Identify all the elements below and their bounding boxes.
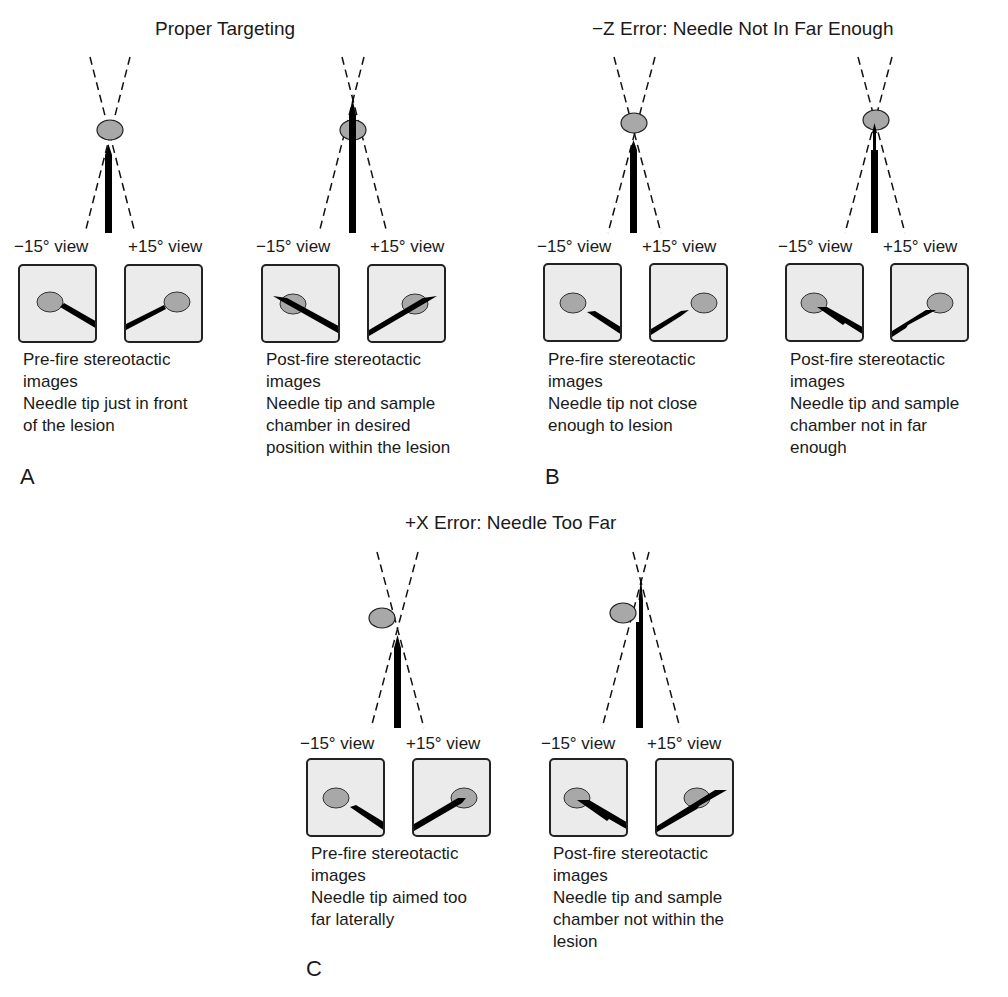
- needle-shaft-icon: [105, 155, 112, 233]
- panel-b-prefire-side-diagram: [590, 55, 680, 235]
- caption-line: Needle tip not close: [548, 393, 788, 415]
- caption-line: images: [23, 371, 263, 393]
- needle-tip-icon: [394, 635, 401, 648]
- panel-a-prefire-caption: Pre-fire stereotactic images Needle tip …: [23, 349, 263, 437]
- panel-a-title: Proper Targeting: [155, 18, 295, 40]
- plus-15-view-label: +15° view: [128, 237, 202, 257]
- panel-b-postfire-side-diagram: [830, 55, 920, 235]
- panel-a-postfire-minus15-view: [261, 264, 340, 343]
- minus-15-view-label: −15° view: [256, 237, 330, 257]
- caption-line: Needle tip and sample: [553, 887, 793, 909]
- panel-a-prefire-side-diagram: [70, 55, 160, 235]
- caption-line: Pre-fire stereotactic: [23, 349, 263, 371]
- caption-line: of the lesion: [23, 415, 263, 437]
- lesion-icon: [610, 603, 636, 623]
- lesion-icon: [621, 113, 647, 133]
- needle-shaft-icon: [349, 115, 356, 233]
- panel-c-postfire-side-diagram: [590, 550, 690, 730]
- caption-line: enough to lesion: [548, 415, 788, 437]
- caption-line: Needle tip aimed too: [311, 887, 551, 909]
- caption-line: enough: [790, 437, 1008, 459]
- plus-15-view-label: +15° view: [406, 734, 480, 754]
- panel-b-postfire-plus15-view: [890, 263, 969, 342]
- sample-chamber-icon: [639, 600, 643, 624]
- plus-15-view-label: +15° view: [883, 237, 957, 257]
- panel-b-postfire-caption: Post-fire stereotactic images Needle tip…: [790, 349, 1008, 459]
- caption-line: Needle tip and sample: [266, 393, 506, 415]
- panel-c-postfire-view-labels: −15° view +15° view: [541, 734, 771, 756]
- caption-line: images: [266, 371, 506, 393]
- panel-a-postfire-side-diagram: [310, 55, 400, 235]
- panel-a-postfire-caption: Post-fire stereotactic images Needle tip…: [266, 349, 506, 459]
- panel-c-postfire-minus15-view: [549, 758, 628, 837]
- needle-icon: [817, 307, 864, 335]
- lesion-icon: [323, 788, 349, 808]
- caption-line: position within the lesion: [266, 437, 506, 459]
- caption-line: Pre-fire stereotactic: [311, 843, 551, 865]
- needle-icon: [414, 798, 466, 831]
- minus-15-view-label: −15° view: [300, 734, 374, 754]
- caption-line: Post-fire stereotactic: [553, 843, 793, 865]
- lesion-icon: [691, 293, 717, 313]
- needle-icon: [892, 310, 936, 337]
- needle-icon: [350, 805, 385, 831]
- needle-icon: [587, 311, 622, 335]
- needle-tip-icon: [639, 578, 644, 600]
- minus-15-view-label: −15° view: [14, 237, 88, 257]
- panel-c-prefire-plus15-view: [412, 758, 491, 837]
- panel-c-prefire-caption: Pre-fire stereotactic images Needle tip …: [311, 843, 551, 931]
- panel-a-prefire-plus15-view: [124, 264, 203, 343]
- caption-line: Needle tip and sample: [790, 393, 1008, 415]
- caption-line: images: [548, 371, 788, 393]
- needle-icon: [60, 303, 97, 329]
- needle-icon: [126, 305, 166, 330]
- panel-b-postfire-minus15-view: [785, 263, 864, 342]
- needle-shaft-icon: [871, 150, 878, 233]
- caption-line: images: [790, 371, 1008, 393]
- caption-line: far laterally: [311, 909, 551, 931]
- caption-line: chamber in desired: [266, 415, 506, 437]
- sample-chamber-icon: [873, 130, 876, 152]
- needle-tip-icon: [349, 99, 356, 115]
- needle-shaft-icon: [630, 150, 637, 233]
- caption-line: lesion: [553, 931, 793, 953]
- panel-b-title: −Z Error: Needle Not In Far Enough: [592, 18, 894, 40]
- panel-b-prefire-view-labels: −15° view +15° view: [537, 237, 767, 259]
- minus-15-view-label: −15° view: [778, 237, 852, 257]
- panel-c-prefire-view-labels: −15° view +15° view: [300, 734, 530, 756]
- panel-a-postfire-view-labels: −15° view +15° view: [256, 237, 486, 259]
- panel-a-postfire-plus15-view: [367, 264, 446, 343]
- plus-15-view-label: +15° view: [370, 237, 444, 257]
- needle-shaft-icon: [636, 622, 643, 728]
- lesion-icon: [863, 110, 889, 130]
- panel-c-postfire-plus15-view: [655, 758, 734, 837]
- caption-line: Needle tip just in front: [23, 393, 263, 415]
- panel-a-prefire-view-labels: −15° view +15° view: [14, 237, 244, 259]
- panel-c-prefire-minus15-view: [306, 758, 385, 837]
- caption-line: Pre-fire stereotactic: [548, 349, 788, 371]
- lesion-icon: [369, 608, 395, 628]
- minus-15-view-label: −15° view: [541, 734, 615, 754]
- needle-icon: [577, 800, 628, 830]
- needle-icon: [273, 296, 340, 334]
- lesion-icon: [560, 293, 586, 313]
- caption-line: Post-fire stereotactic: [790, 349, 1008, 371]
- plus-15-view-label: +15° view: [647, 734, 721, 754]
- panel-c-postfire-caption: Post-fire stereotactic images Needle tip…: [553, 843, 793, 953]
- panel-b-prefire-caption: Pre-fire stereotactic images Needle tip …: [548, 349, 788, 437]
- panel-a-prefire-minus15-view: [18, 264, 97, 343]
- needle-shaft-icon: [394, 648, 401, 728]
- caption-line: chamber not in far: [790, 415, 1008, 437]
- lesion-icon: [37, 292, 63, 312]
- panel-b-prefire-plus15-view: [649, 263, 728, 342]
- caption-line: Post-fire stereotactic: [266, 349, 506, 371]
- needle-icon: [651, 310, 689, 335]
- caption-line: chamber not within the: [553, 909, 793, 931]
- panel-a-letter: A: [20, 464, 35, 490]
- minus-15-view-label: −15° view: [537, 237, 611, 257]
- panel-c-letter: C: [306, 956, 322, 982]
- panel-b-postfire-view-labels: −15° view +15° view: [778, 237, 1008, 259]
- plus-15-view-label: +15° view: [642, 237, 716, 257]
- caption-line: images: [553, 865, 793, 887]
- panel-b-prefire-minus15-view: [543, 263, 622, 342]
